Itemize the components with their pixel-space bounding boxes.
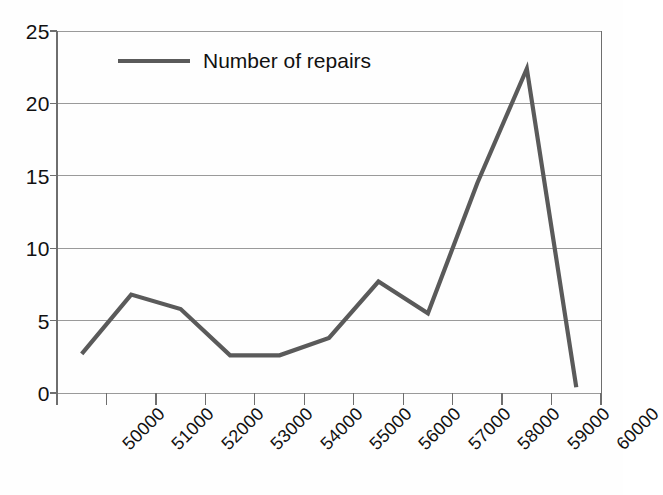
y-axis-tick-label: 20 [26, 93, 50, 114]
x-axis-tick-label: 55000 [366, 404, 415, 453]
y-axis-tick-label: 10 [26, 238, 50, 259]
chart-legend: Number of repairs [118, 50, 371, 71]
x-axis-tick-label: 50000 [119, 404, 168, 453]
x-axis-tick-label: 56000 [416, 404, 465, 453]
x-axis-tick-label: 58000 [514, 404, 563, 453]
x-axis-tick-label: 51000 [168, 404, 217, 453]
x-axis-tick-label: 57000 [465, 404, 514, 453]
x-axis-tick-label: 54000 [317, 404, 366, 453]
x-axis-tick-label: 59000 [564, 404, 613, 453]
y-axis-tick-label: 5 [38, 310, 50, 331]
data-line-number-of-repairs [82, 69, 577, 388]
legend-entry-label: Number of repairs [203, 50, 371, 71]
x-axis-tick-labels: 5000051000520005300054000550005600057000… [0, 404, 623, 495]
x-axis-tick-label: 60000 [613, 404, 662, 453]
x-axis-tick-label: 53000 [267, 404, 316, 453]
line-swatch-icon [118, 59, 190, 63]
x-axis-tick-label: 52000 [218, 404, 267, 453]
y-axis-tick-label: 25 [26, 21, 50, 42]
y-axis-tick-label: 0 [38, 383, 50, 404]
y-axis-tick-label: 15 [26, 165, 50, 186]
